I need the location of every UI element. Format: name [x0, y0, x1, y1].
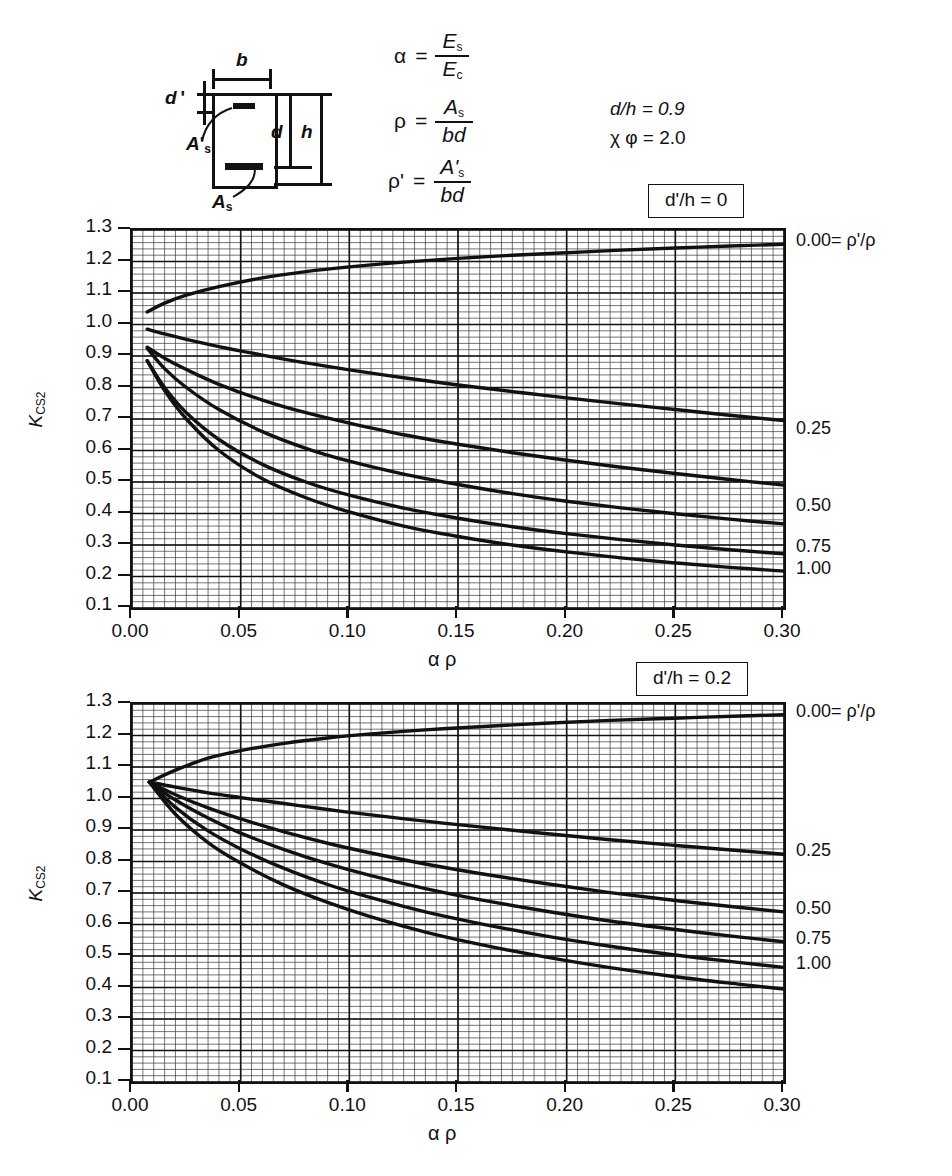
curve-1.00	[149, 782, 784, 967]
ytick-mark	[118, 701, 130, 703]
ytick-mark	[118, 985, 130, 987]
ytick-label: 1.0	[56, 784, 112, 806]
data-curves	[149, 715, 784, 989]
chart-bottom-ylabel: KCS2	[25, 854, 48, 914]
xtick-label: 0.15	[416, 1094, 496, 1116]
xtick-label: 0.30	[742, 1094, 822, 1116]
chart-bottom-xlabel: α ρ	[428, 1122, 457, 1145]
ytick-label: 0.9	[56, 815, 112, 837]
ytick-mark	[118, 764, 130, 766]
xtick-label: 0.25	[633, 1094, 713, 1116]
ytick-label: 0.5	[56, 941, 112, 963]
ytick-label: 1.3	[56, 689, 112, 711]
ytick-label: 0.6	[56, 910, 112, 932]
xtick-mark	[564, 1080, 566, 1092]
xtick-mark	[672, 1080, 674, 1092]
series-label: 1.00	[796, 953, 831, 974]
chart-bottom-title-box: d'/h = 0.2	[636, 662, 748, 696]
ytick-mark	[118, 890, 130, 892]
grid-lines	[132, 704, 784, 1082]
ytick-mark	[118, 733, 130, 735]
xtick-mark	[455, 1080, 457, 1092]
xtick-mark	[238, 1080, 240, 1092]
series-label: 0.00= ρ'/ρ	[796, 701, 875, 722]
series-label: 0.50	[796, 898, 831, 919]
xtick-label: 0.10	[307, 1094, 387, 1116]
ytick-label: 1.2	[56, 721, 112, 743]
ytick-label: 0.7	[56, 878, 112, 900]
chart-bottom-plot-area	[130, 702, 786, 1084]
xtick-mark	[781, 1080, 783, 1092]
ytick-mark	[118, 827, 130, 829]
xtick-mark	[346, 1080, 348, 1092]
ytick-mark	[118, 922, 130, 924]
ytick-mark	[118, 859, 130, 861]
curve-0.25	[149, 782, 784, 854]
ytick-label: 0.4	[56, 973, 112, 995]
series-label: 0.25	[796, 840, 831, 861]
ytick-mark	[118, 796, 130, 798]
xtick-label: 0.05	[199, 1094, 279, 1116]
xtick-label: 0.20	[525, 1094, 605, 1116]
ytick-mark	[118, 953, 130, 955]
ytick-label: 1.1	[56, 752, 112, 774]
chart-grid-and-curves-1	[132, 704, 784, 1082]
xtick-label: 0.00	[90, 1094, 170, 1116]
ytick-label: 0.1	[56, 1067, 112, 1089]
xtick-mark	[129, 1080, 131, 1092]
ytick-mark	[118, 1016, 130, 1018]
ytick-mark	[118, 1048, 130, 1050]
series-label: 0.75	[796, 928, 831, 949]
ytick-label: 0.3	[56, 1004, 112, 1026]
chart-bottom: d'/h = 0.2 KCS2 α ρ 1.31.21.11.00.90.80.…	[0, 0, 952, 1176]
ytick-label: 0.2	[56, 1036, 112, 1058]
ytick-label: 0.8	[56, 847, 112, 869]
